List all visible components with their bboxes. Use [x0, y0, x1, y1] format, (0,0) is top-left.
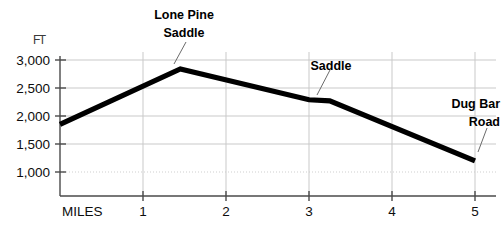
- y-axis-label-3000: 3,000: [16, 53, 50, 68]
- x-axis-label-5: 5: [471, 204, 479, 219]
- chart-canvas: 3,000 2,500 2,000 1,500 1,000 FT MILES 1…: [0, 0, 504, 234]
- elevation-profile-chart: 3,000 2,500 2,000 1,500 1,000 FT MILES 1…: [0, 0, 504, 234]
- y-axis-label-1000: 1,000: [16, 165, 50, 180]
- x-axis-label-3: 3: [305, 204, 313, 219]
- x-axis-label-4: 4: [388, 204, 396, 219]
- annotation-lone-pine-line1: Lone Pine: [154, 8, 214, 22]
- y-axis-label-2000: 2,000: [16, 109, 50, 124]
- annotation-lone-pine-line2: Saddle: [164, 26, 205, 40]
- annotation-saddle-label: Saddle: [311, 59, 352, 73]
- x-axis-label-2: 2: [222, 204, 230, 219]
- y-axis-label-1500: 1,500: [16, 137, 50, 152]
- y-axis-label-2500: 2,500: [16, 81, 50, 96]
- annotation-dug-bar-line1: Dug Bar: [451, 97, 500, 111]
- x-axis-name-miles: MILES: [62, 204, 103, 219]
- x-axis-label-1: 1: [139, 204, 147, 219]
- annotation-dug-bar-line2: Road: [469, 115, 500, 129]
- annotation-saddle: Saddle: [311, 59, 352, 73]
